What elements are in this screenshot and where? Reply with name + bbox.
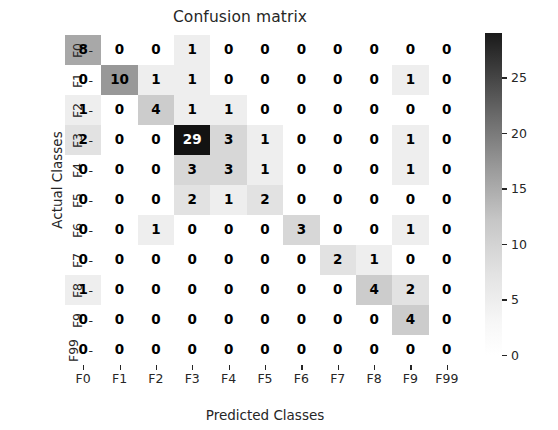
heatmap-cell: 0 — [429, 125, 465, 155]
x-tick-F2: F2 — [138, 371, 174, 386]
heatmap-cell: 0 — [429, 305, 465, 335]
heatmap-cell: 1 — [247, 125, 283, 155]
heatmap-cell: 0 — [247, 335, 283, 365]
heatmap-cell-value: 0 — [333, 283, 342, 297]
x-tick-mark — [229, 365, 230, 370]
heatmap-cell-value: 0 — [333, 343, 342, 357]
heatmap-cell: 0 — [320, 95, 356, 125]
y-tick-mark: - — [88, 133, 93, 148]
colorbar-tick-label: 20 — [511, 125, 527, 140]
heatmap-cell-value: 0 — [188, 253, 197, 267]
colorbar-tick-mark — [502, 133, 507, 134]
heatmap-cell: 0 — [247, 65, 283, 95]
chart-title: Confusion matrix — [0, 8, 480, 26]
heatmap-cell: 0 — [356, 215, 392, 245]
heatmap-cell: 0 — [356, 35, 392, 65]
y-tick-mark: - — [88, 193, 93, 208]
heatmap-cell: 1 — [174, 65, 210, 95]
x-tick-mark — [374, 365, 375, 370]
y-tick-mark: - — [88, 73, 93, 88]
heatmap-cell: 0 — [101, 275, 137, 305]
heatmap-cell-value: 0 — [224, 253, 233, 267]
heatmap-cell-value: 0 — [406, 193, 415, 207]
heatmap-cell-value: 4 — [406, 313, 415, 327]
colorbar-tick-mark — [502, 355, 507, 356]
heatmap-cell-value: 1 — [406, 223, 415, 237]
heatmap-cell-value: 0 — [224, 223, 233, 237]
heatmap-cell-value: 0 — [406, 343, 415, 357]
x-tick-mark — [83, 365, 84, 370]
heatmap-cell-value: 0 — [369, 133, 378, 147]
heatmap-cell-value: 0 — [151, 343, 160, 357]
heatmap-cell: 1 — [392, 155, 428, 185]
heatmap-cell: 0 — [101, 35, 137, 65]
heatmap-cell-value: 1 — [224, 193, 233, 207]
heatmap-cell: 0 — [356, 65, 392, 95]
heatmap-cell: 0 — [101, 245, 137, 275]
heatmap-cell: 0 — [320, 305, 356, 335]
x-axis-label: Predicted Classes — [206, 407, 325, 423]
heatmap-cell: 0 — [101, 305, 137, 335]
x-tick-F8: F8 — [356, 371, 392, 386]
heatmap-cell-value: 0 — [78, 193, 87, 207]
heatmap-cell: 0 — [138, 155, 174, 185]
heatmap-cell: 1 — [174, 35, 210, 65]
y-tick-mark: - — [88, 223, 93, 238]
heatmap-cell: 0 — [138, 305, 174, 335]
heatmap-cell-value: 0 — [188, 283, 197, 297]
heatmap-cell: 0 — [247, 275, 283, 305]
heatmap-cell: 0 — [320, 65, 356, 95]
heatmap-cell: 0 — [429, 95, 465, 125]
heatmap-cell-value: 0 — [151, 163, 160, 177]
heatmap-cell-value: 0 — [333, 193, 342, 207]
heatmap-cell: 0 — [138, 35, 174, 65]
heatmap-cell-value: 0 — [369, 73, 378, 87]
heatmap-cell: 0 — [320, 125, 356, 155]
heatmap-cell: 0 — [283, 35, 319, 65]
heatmap-cell: 0 — [392, 95, 428, 125]
heatmap-cell-value: 0 — [224, 313, 233, 327]
heatmap-cell: 0 — [101, 335, 137, 365]
heatmap-cell: 0 — [320, 35, 356, 65]
heatmap-cell: 0 — [283, 275, 319, 305]
heatmap-cell-value: 2 — [78, 133, 87, 147]
heatmap-cell-value: 0 — [78, 73, 87, 87]
colorbar-tick-label: 15 — [511, 181, 527, 196]
heatmap-cell-value: 1 — [188, 43, 197, 57]
heatmap-cell-value: 0 — [188, 313, 197, 327]
heatmap-cell-value: 0 — [78, 223, 87, 237]
heatmap-cell-value: 2 — [333, 253, 342, 267]
heatmap-cell: 3 — [174, 155, 210, 185]
heatmap-cell-value: 0 — [151, 313, 160, 327]
heatmap-cell-value: 0 — [333, 103, 342, 117]
heatmap-cell: 0 — [320, 215, 356, 245]
heatmap-cell-value: 10 — [110, 73, 129, 87]
colorbar-tick-mark — [502, 244, 507, 245]
y-tick-mark: - — [88, 43, 93, 58]
heatmap-cell: 0 — [101, 155, 137, 185]
heatmap-cell-value: 0 — [442, 73, 451, 87]
heatmap-cell: 1 — [392, 65, 428, 95]
heatmap-cell: 2 — [392, 275, 428, 305]
heatmap-cell-value: 0 — [297, 103, 306, 117]
heatmap-cell-value: 1 — [188, 103, 197, 117]
heatmap-cell: 0 — [283, 95, 319, 125]
heatmap-cell: 0 — [429, 275, 465, 305]
x-tick-F99: F99 — [429, 371, 465, 386]
heatmap-cell-value: 0 — [115, 223, 124, 237]
heatmap-cell: 0 — [356, 335, 392, 365]
heatmap-cell: 0 — [392, 335, 428, 365]
heatmap-cell-value: 0 — [260, 343, 269, 357]
heatmap-cell-value: 0 — [442, 103, 451, 117]
heatmap-cell: 1 — [392, 125, 428, 155]
colorbar-tick-mark — [502, 299, 507, 300]
heatmap-cell: 0 — [174, 335, 210, 365]
x-tick-mark — [301, 365, 302, 370]
heatmap-cell-value: 0 — [115, 193, 124, 207]
heatmap-cell: 1 — [138, 65, 174, 95]
heatmap-cell-value: 1 — [406, 133, 415, 147]
colorbar-tick-label: 0 — [511, 348, 519, 363]
heatmap-cell-value: 0 — [333, 163, 342, 177]
x-tick-mark — [120, 365, 121, 370]
heatmap-cell: 0 — [283, 185, 319, 215]
